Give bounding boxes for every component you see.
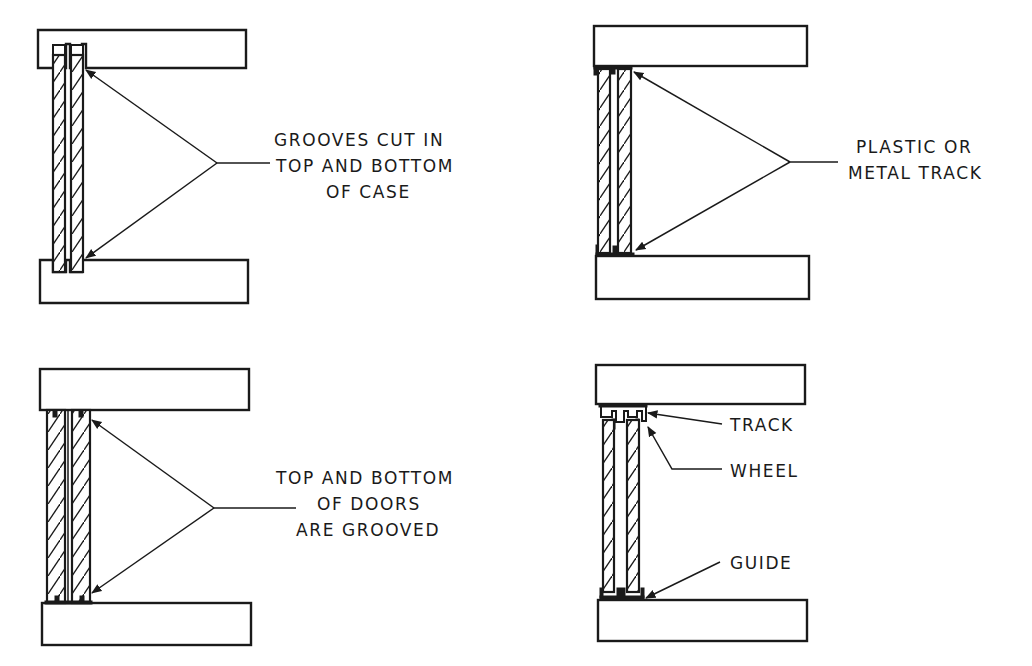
- label-track: TRACK: [729, 415, 794, 435]
- label-guide: GUIDE: [730, 553, 792, 573]
- leader-top-track: [634, 72, 790, 162]
- rear-door-top-cap: [53, 45, 65, 55]
- front-door: [618, 69, 631, 253]
- top-case-board: [38, 30, 246, 68]
- top-track-plate: [599, 404, 647, 407]
- sliding-door-diagram: GROOVES CUT IN TOP AND BOTTOM OF CASE PL…: [0, 0, 1032, 666]
- top-spline-front: [79, 411, 83, 417]
- top-case-board: [596, 365, 805, 404]
- top-case-board: [594, 26, 807, 66]
- label-doors-line-3: ARE GROOVED: [296, 520, 440, 540]
- panel-track-wheel-guide: TRACK WHEEL GUIDE: [596, 365, 807, 641]
- label-track-line-2: METAL TRACK: [848, 163, 982, 183]
- leader-track: [648, 413, 722, 424]
- rear-door: [598, 69, 610, 253]
- rear-door: [53, 55, 65, 272]
- rear-door: [603, 420, 614, 592]
- front-guide-lip: [641, 588, 644, 598]
- top-track-rear-lip: [594, 66, 597, 75]
- label-grooves-line-2: TOP AND BOTTOM: [275, 156, 454, 176]
- leader-bottom-door-groove: [92, 508, 214, 593]
- label-doors-line-2: OF DOORS: [317, 494, 421, 514]
- front-door-top-cap: [71, 45, 83, 55]
- label-doors-line-1: TOP AND BOTTOM: [275, 468, 454, 488]
- bottom-case-board: [596, 256, 809, 299]
- leader-wheel: [648, 427, 722, 469]
- panel-grooved-doors: TOP AND BOTTOM OF DOORS ARE GROOVED: [40, 369, 454, 645]
- front-door: [72, 410, 90, 603]
- front-door: [627, 420, 639, 592]
- rear-guide-lip: [600, 588, 603, 598]
- label-track-line-1: PLASTIC OR: [856, 137, 972, 157]
- leader-top-door-groove: [92, 420, 214, 508]
- panel-grooved-case: GROOVES CUT IN TOP AND BOTTOM OF CASE: [38, 30, 454, 303]
- leader-bottom-groove: [86, 163, 217, 258]
- bottom-case-board: [598, 600, 807, 641]
- label-wheel: WHEEL: [730, 461, 799, 481]
- front-door: [71, 55, 83, 272]
- top-track-divider: [611, 66, 615, 74]
- center-guide-block: [617, 588, 625, 598]
- bottom-case-board: [42, 603, 251, 645]
- leader-guide: [646, 562, 720, 598]
- rear-door: [47, 410, 65, 603]
- label-grooves-line-3: OF CASE: [326, 182, 411, 202]
- bottom-track-divider: [613, 246, 617, 255]
- top-case-board: [40, 369, 249, 410]
- panel-plastic-metal-track: PLASTIC OR METAL TRACK: [594, 26, 982, 299]
- top-spline-rear: [53, 411, 57, 417]
- leader-bottom-track: [636, 162, 790, 250]
- leader-top-groove: [86, 70, 217, 163]
- label-grooves-line-1: GROOVES CUT IN: [274, 130, 444, 150]
- bottom-rail: [45, 601, 92, 604]
